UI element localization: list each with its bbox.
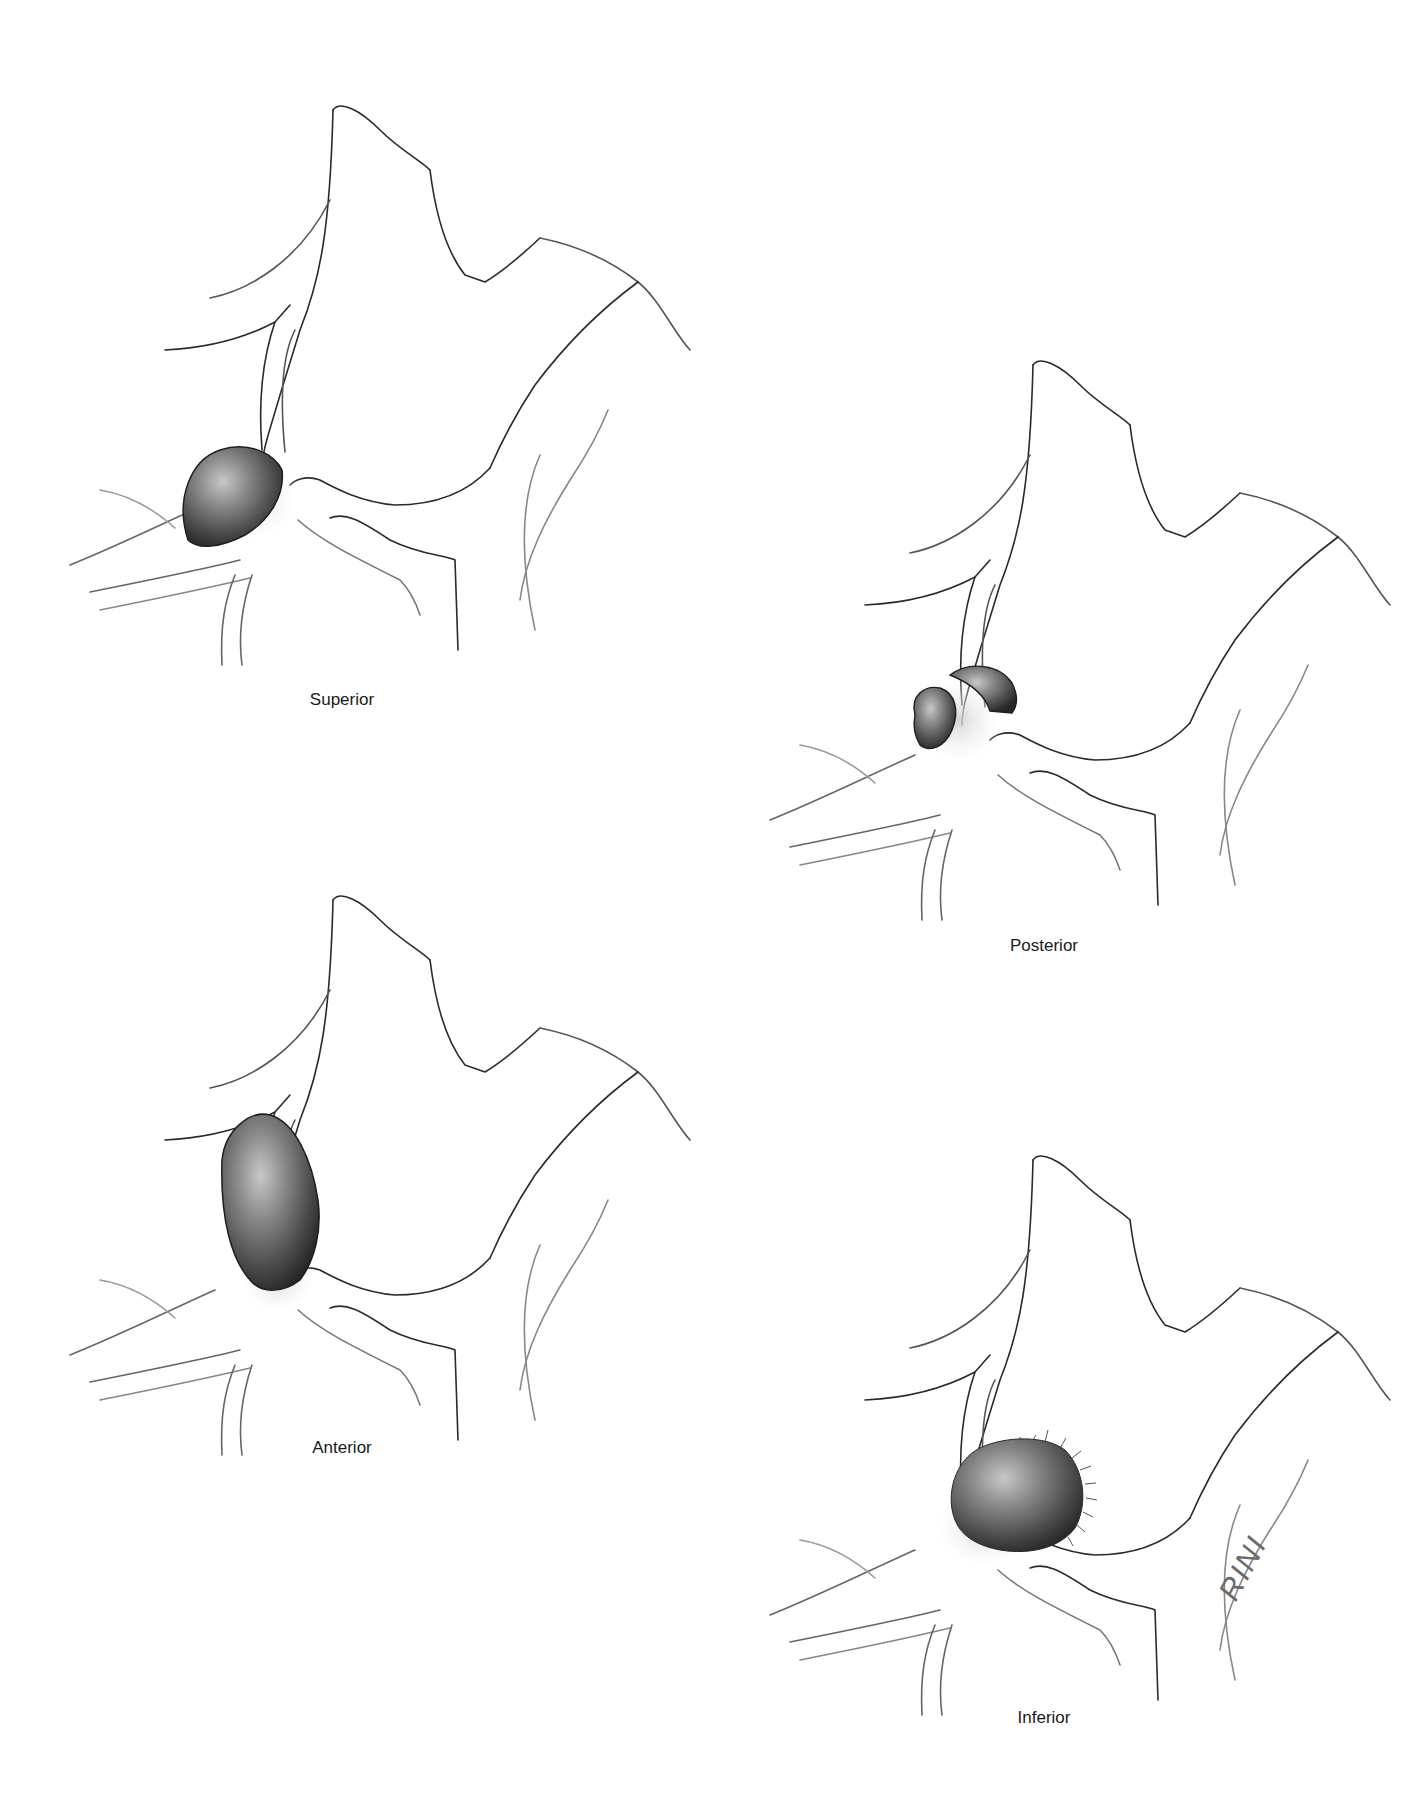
view-label-posterior: Posterior [1010, 936, 1078, 956]
view-label-inferior: Inferior [1018, 1708, 1071, 1728]
vessel-line-art [770, 1156, 1390, 1715]
aneurysm-sac [222, 1114, 319, 1290]
vessel-line-art [770, 361, 1390, 920]
view-label-anterior: Anterior [312, 1438, 372, 1458]
aneurysm-views-illustration [0, 0, 1421, 1798]
panel-inferior [770, 1156, 1390, 1715]
vessel-line-art [70, 896, 690, 1455]
panel-superior [70, 106, 690, 665]
view-label-superior: Superior [310, 690, 374, 710]
panel-anterior [70, 896, 690, 1455]
aneurysm-sac [951, 1439, 1083, 1552]
panel-posterior [770, 361, 1390, 920]
vessel-line-art [70, 106, 690, 665]
